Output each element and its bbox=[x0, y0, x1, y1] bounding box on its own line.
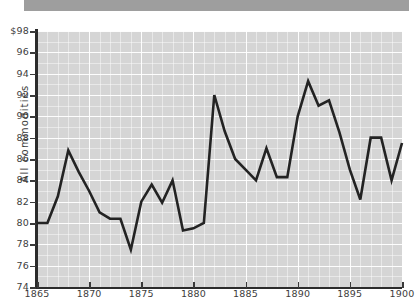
y-tick-mark bbox=[30, 223, 36, 225]
top-banner-bar bbox=[24, 0, 409, 11]
x-tick-mark bbox=[402, 282, 404, 288]
y-tick-mark bbox=[30, 266, 36, 268]
y-tick-label: 80 bbox=[1, 217, 29, 228]
x-tick-mark bbox=[89, 282, 91, 288]
y-tick-label: 78 bbox=[1, 238, 29, 249]
y-tick-mark bbox=[30, 74, 36, 76]
x-tick-mark bbox=[298, 282, 300, 288]
y-tick-mark bbox=[30, 244, 36, 246]
major-gridlines bbox=[37, 31, 402, 287]
y-axis-title: All commodities bbox=[19, 64, 30, 204]
x-tick-mark bbox=[141, 282, 143, 288]
x-tick-mark bbox=[193, 282, 195, 288]
y-tick-label: $98 bbox=[1, 25, 29, 36]
y-tick-mark bbox=[30, 202, 36, 204]
y-tick-label: 76 bbox=[1, 260, 29, 271]
x-tick-label: 1900 bbox=[382, 288, 419, 299]
y-tick-mark bbox=[30, 180, 36, 182]
x-tick-mark bbox=[246, 282, 248, 288]
y-tick-mark bbox=[30, 31, 36, 33]
y-tick-label: 96 bbox=[1, 46, 29, 57]
x-tick-label: 1870 bbox=[69, 288, 109, 299]
y-tick-mark bbox=[30, 159, 36, 161]
y-tick-mark bbox=[30, 138, 36, 140]
plot-area bbox=[37, 31, 402, 287]
x-tick-mark bbox=[37, 282, 39, 288]
x-tick-label: 1880 bbox=[173, 288, 213, 299]
y-tick-mark bbox=[30, 52, 36, 54]
y-tick-mark bbox=[30, 287, 36, 289]
x-tick-mark bbox=[350, 282, 352, 288]
x-tick-label: 1865 bbox=[17, 288, 57, 299]
x-tick-label: 1895 bbox=[330, 288, 370, 299]
y-tick-mark bbox=[30, 116, 36, 118]
y-tick-mark bbox=[30, 95, 36, 97]
x-tick-label: 1875 bbox=[121, 288, 161, 299]
x-tick-label: 1890 bbox=[278, 288, 318, 299]
x-tick-label: 1885 bbox=[226, 288, 266, 299]
